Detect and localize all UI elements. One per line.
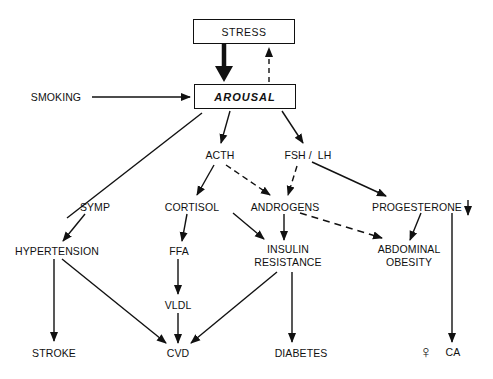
edge-progesterone-obesity bbox=[410, 213, 421, 240]
node-ffa: FFA bbox=[169, 245, 189, 257]
node-hypertension: HYPERTENSION bbox=[15, 245, 99, 257]
edge-arousal-fshlh bbox=[282, 111, 303, 143]
node-abdominal-obesity-line1: ABDOMINAL bbox=[378, 243, 441, 256]
node-ca: CA bbox=[446, 346, 461, 358]
node-stress: STRESS bbox=[193, 19, 295, 44]
edge-cortisol-ffa bbox=[182, 214, 187, 241]
node-fsh-lh: FSH / LH bbox=[285, 149, 332, 161]
edge-arousal-acth bbox=[221, 111, 230, 143]
node-abdominal-obesity: ABDOMINAL OBESITY bbox=[378, 243, 441, 269]
edge-cortisol-insulin bbox=[233, 213, 264, 239]
edge-acth-androgens bbox=[226, 165, 270, 195]
edge-fshlh-androgens bbox=[288, 166, 297, 195]
node-smoking: SMOKING bbox=[31, 91, 81, 103]
female-symbol-icon: ♀ bbox=[419, 343, 433, 361]
edge-insulin-cvd bbox=[191, 272, 277, 343]
node-androgens: ANDROGENS bbox=[251, 201, 320, 213]
node-cortisol: CORTISOL bbox=[165, 201, 219, 213]
edge-androgens-obesity bbox=[300, 213, 382, 238]
edge-hypertension-cvd bbox=[62, 259, 166, 343]
node-progesterone: PROGESTERONE bbox=[372, 201, 462, 213]
node-vldl: VLDL bbox=[165, 299, 192, 311]
node-insulin-resistance-line2: RESISTANCE bbox=[254, 256, 321, 269]
edge-symp-hypertension bbox=[63, 214, 85, 241]
node-acth: ACTH bbox=[206, 149, 235, 161]
node-cvd: CVD bbox=[167, 347, 189, 359]
node-insulin-resistance-line1: INSULIN bbox=[254, 243, 321, 256]
stress-pathway-diagram: STRESS AROUSAL SMOKING ACTH FSH / LH SYM… bbox=[0, 0, 493, 379]
edges-layer bbox=[0, 0, 493, 379]
node-arousal: AROUSAL bbox=[194, 84, 296, 109]
node-diabetes: DIABETES bbox=[275, 347, 328, 359]
node-insulin-resistance: INSULIN RESISTANCE bbox=[254, 243, 321, 269]
node-stroke: STROKE bbox=[32, 347, 76, 359]
edge-fshlh-progesterone bbox=[312, 162, 386, 196]
edge-acth-cortisol bbox=[197, 165, 214, 195]
node-stress-label: STRESS bbox=[221, 26, 266, 38]
node-arousal-label: AROUSAL bbox=[214, 91, 275, 103]
node-abdominal-obesity-line2: OBESITY bbox=[378, 256, 441, 269]
node-symp: SYMP bbox=[80, 201, 110, 213]
